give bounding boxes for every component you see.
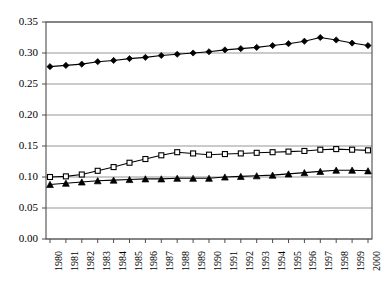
- data-point-diamond: [349, 40, 355, 46]
- data-point-square: [238, 151, 243, 156]
- data-point-diamond: [222, 47, 228, 53]
- data-point-diamond: [47, 64, 53, 70]
- y-tick-label: 0.10: [4, 171, 38, 182]
- x-tick-label: 1987: [165, 251, 175, 271]
- x-tick-label: 1990: [213, 251, 223, 271]
- x-tick-label: 1984: [118, 251, 128, 271]
- data-point-diamond: [190, 50, 196, 56]
- data-point-square: [191, 151, 196, 156]
- data-point-square: [159, 153, 164, 158]
- x-tick-label: 1997: [324, 251, 334, 271]
- x-tick-label: 1991: [229, 251, 239, 271]
- x-tick-label: 1980: [54, 251, 64, 271]
- y-tick-label: 0.00: [4, 233, 38, 244]
- x-axis-ticks: [50, 239, 368, 243]
- data-point-diamond: [317, 34, 323, 40]
- x-tick-label: 1992: [245, 251, 255, 271]
- y-tick-label: 0.20: [4, 109, 38, 120]
- x-tick-label: 1998: [340, 251, 350, 271]
- data-point-square: [286, 149, 291, 154]
- data-point-square: [111, 165, 116, 170]
- data-point-diamond: [238, 46, 244, 52]
- data-point-square: [143, 157, 148, 162]
- x-tick-label: 1988: [181, 251, 191, 271]
- data-point-square: [207, 152, 212, 157]
- y-tick-label: 0.15: [4, 140, 38, 151]
- data-point-square: [79, 172, 84, 177]
- x-tick-label: 1994: [277, 251, 287, 271]
- y-tick-label: 0.25: [4, 78, 38, 89]
- data-point-diamond: [270, 42, 276, 48]
- line-chart: 0.350.300.250.200.150.100.050.00 1980198…: [0, 0, 389, 289]
- x-tick-label: 1986: [149, 251, 159, 271]
- x-tick-label: 1999: [356, 251, 366, 271]
- data-point-diamond: [111, 57, 117, 63]
- data-point-diamond: [301, 38, 307, 44]
- y-tick-label: 0.30: [4, 47, 38, 58]
- y-tick-label: 0.05: [4, 202, 38, 213]
- data-point-square: [222, 152, 227, 157]
- data-point-square: [318, 147, 323, 152]
- data-point-diamond: [79, 61, 85, 67]
- data-point-square: [127, 160, 132, 165]
- data-point-square: [302, 148, 307, 153]
- data-point-diamond: [365, 42, 371, 48]
- series-diamond: [47, 34, 371, 69]
- data-series-layer: [47, 34, 372, 187]
- x-tick-label: 1983: [102, 251, 112, 271]
- data-point-square: [270, 150, 275, 155]
- x-tick-label: 1993: [261, 251, 271, 271]
- data-point-square: [254, 150, 259, 155]
- x-tick-label: 1981: [70, 251, 80, 271]
- data-point-square: [48, 175, 53, 180]
- x-tick-label: 1996: [308, 251, 318, 271]
- y-tick-label: 0.35: [4, 16, 38, 27]
- x-tick-label: 1995: [293, 251, 303, 271]
- chart-plot-area: [0, 0, 389, 289]
- data-point-diamond: [333, 37, 339, 43]
- data-point-diamond: [285, 41, 291, 47]
- data-point-diamond: [126, 55, 132, 61]
- data-point-diamond: [206, 49, 212, 55]
- data-point-square: [175, 150, 180, 155]
- y-axis-ticks: [42, 22, 46, 239]
- data-point-square: [350, 147, 355, 152]
- x-tick-label: 2000: [372, 251, 382, 271]
- x-tick-label: 1982: [86, 251, 96, 271]
- x-tick-label: 1985: [134, 251, 144, 271]
- data-point-diamond: [254, 44, 260, 50]
- data-point-diamond: [142, 54, 148, 60]
- data-point-diamond: [174, 51, 180, 57]
- data-point-square: [334, 147, 339, 152]
- x-tick-label: 1989: [197, 251, 207, 271]
- data-point-square: [63, 174, 68, 179]
- data-point-diamond: [63, 62, 69, 68]
- data-point-square: [366, 148, 371, 153]
- data-point-square: [95, 168, 100, 173]
- data-point-diamond: [95, 59, 101, 65]
